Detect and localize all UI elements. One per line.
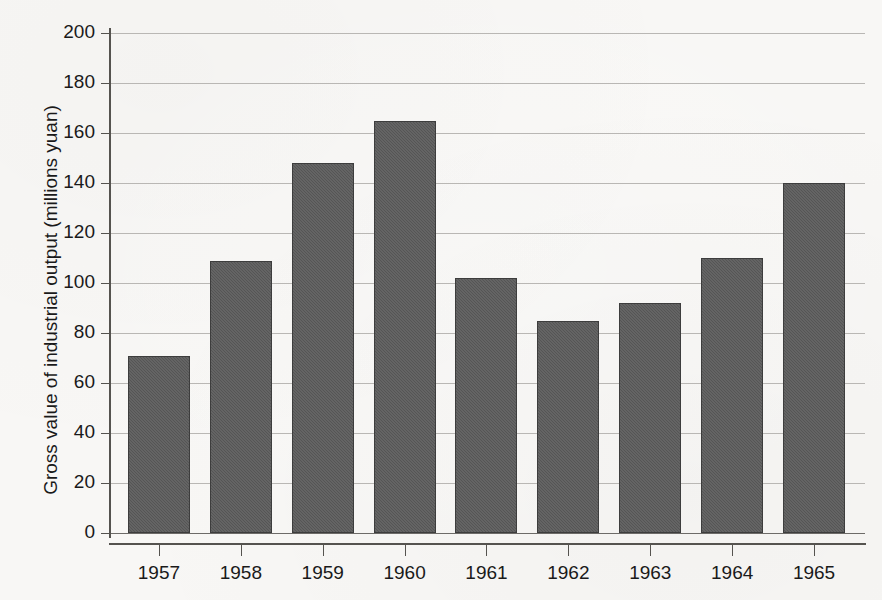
- y-tick-label-100: 100: [40, 271, 95, 293]
- gridline-180: [110, 83, 865, 84]
- bar-1961: [455, 278, 517, 533]
- x-tick-1960: [405, 545, 406, 556]
- bar-1964: [701, 258, 763, 533]
- bar-1963: [619, 303, 681, 533]
- y-tick-label-140: 140: [40, 171, 95, 193]
- x-axis-line: [109, 543, 866, 545]
- y-tick-label-180: 180: [40, 71, 95, 93]
- y-tick-140: [101, 183, 111, 184]
- y-tick-label-160: 160: [40, 121, 95, 143]
- x-tick-label-1962: 1962: [523, 562, 613, 584]
- bar-chart-figure: Gross value of industrial output (millio…: [0, 0, 882, 600]
- x-tick-label-1965: 1965: [769, 562, 859, 584]
- x-tick-label-1960: 1960: [360, 562, 450, 584]
- y-tick-180: [101, 83, 111, 84]
- bar-1962: [537, 321, 599, 534]
- x-tick-1957: [159, 545, 160, 556]
- x-tick-1958: [241, 545, 242, 556]
- y-tick-label-60: 60: [40, 371, 95, 393]
- bar-1957: [128, 356, 190, 534]
- x-tick-1959: [323, 545, 324, 556]
- y-tick-60: [101, 383, 111, 384]
- y-tick-80: [101, 333, 111, 334]
- x-tick-label-1959: 1959: [278, 562, 368, 584]
- y-tick-label-40: 40: [40, 421, 95, 443]
- x-tick-1962: [568, 545, 569, 556]
- gridline-160: [110, 133, 865, 134]
- y-tick-100: [101, 283, 111, 284]
- y-tick-120: [101, 233, 111, 234]
- x-tick-1961: [486, 545, 487, 556]
- y-tick-label-120: 120: [40, 221, 95, 243]
- x-tick-label-1964: 1964: [687, 562, 777, 584]
- x-tick-1965: [814, 545, 815, 556]
- gridline-140: [110, 183, 865, 184]
- x-tick-1963: [650, 545, 651, 556]
- gridline-200: [110, 33, 865, 34]
- x-tick-label-1957: 1957: [114, 562, 204, 584]
- bar-1965: [783, 183, 845, 533]
- plot-area: [110, 33, 865, 533]
- y-tick-label-20: 20: [40, 471, 95, 493]
- y-tick-label-200: 200: [40, 21, 95, 43]
- bar-1960: [374, 121, 436, 534]
- bar-1959: [292, 163, 354, 533]
- y-tick-0: [101, 533, 111, 534]
- gridline-120: [110, 233, 865, 234]
- y-tick-20: [101, 483, 111, 484]
- gridline-0: [110, 533, 865, 534]
- y-tick-label-0: 0: [40, 521, 95, 543]
- y-tick-label-80: 80: [40, 321, 95, 343]
- y-tick-200: [101, 33, 111, 34]
- x-tick-label-1963: 1963: [605, 562, 695, 584]
- x-tick-1964: [732, 545, 733, 556]
- bar-1958: [210, 261, 272, 534]
- y-tick-40: [101, 433, 111, 434]
- x-tick-label-1961: 1961: [441, 562, 531, 584]
- x-tick-label-1958: 1958: [196, 562, 286, 584]
- y-tick-160: [101, 133, 111, 134]
